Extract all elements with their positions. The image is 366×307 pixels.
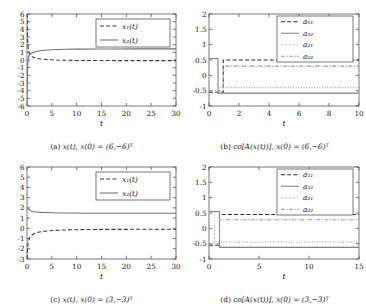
svg-text:6: 6 bbox=[297, 109, 302, 118]
svg-text:a₁₂: a₁₂ bbox=[303, 182, 313, 191]
svg-text:2: 2 bbox=[20, 203, 25, 212]
caption-d-text: co[A(x(t))], x(0) = (3,−3) bbox=[233, 295, 325, 304]
svg-text:4: 4 bbox=[20, 183, 25, 192]
svg-text:20: 20 bbox=[122, 262, 132, 271]
svg-text:0: 0 bbox=[25, 262, 30, 271]
svg-text:-1: -1 bbox=[17, 63, 24, 72]
panel-d: 051015-1-0.500.511.52ta₁₁a₁₂a₂₁a₂₂ (d) c… bbox=[183, 153, 366, 306]
panel-c: 051015202530-3-2-10123456tx₁(t)x₂(t) (c)… bbox=[0, 153, 183, 306]
svg-text:5: 5 bbox=[257, 262, 262, 271]
figure-sheet: 051015202530-6-5-4-3-2-10123456tx₁(t)x₂(… bbox=[0, 0, 366, 307]
svg-text:0: 0 bbox=[207, 109, 212, 118]
caption-c-text: x(t), x(0) = (3,−3) bbox=[63, 295, 130, 304]
svg-text:10: 10 bbox=[304, 262, 314, 271]
svg-text:15: 15 bbox=[97, 109, 107, 118]
svg-text:1: 1 bbox=[20, 48, 25, 57]
svg-text:-2: -2 bbox=[17, 71, 24, 80]
svg-text:4: 4 bbox=[20, 25, 25, 34]
svg-text:15: 15 bbox=[354, 262, 364, 271]
svg-text:-0.5: -0.5 bbox=[193, 239, 207, 248]
chart-a-svg: 051015202530-6-5-4-3-2-10123456tx₁(t)x₂(… bbox=[0, 2, 183, 130]
svg-text:1.5: 1.5 bbox=[195, 25, 207, 34]
caption-b-tag: (b) bbox=[220, 142, 231, 151]
svg-text:1: 1 bbox=[20, 214, 25, 223]
caption-c: (c) x(t), x(0) = (3,−3)T bbox=[0, 296, 183, 304]
svg-text:25: 25 bbox=[147, 262, 157, 271]
svg-text:a₂₂: a₂₂ bbox=[303, 205, 313, 214]
svg-text:t: t bbox=[282, 119, 286, 128]
svg-text:1: 1 bbox=[202, 40, 207, 49]
svg-text:a₂₁: a₂₁ bbox=[303, 193, 313, 202]
svg-text:2: 2 bbox=[237, 109, 242, 118]
caption-a: (a) x(t), x(0) = (6,−6)T bbox=[0, 143, 183, 151]
svg-text:5: 5 bbox=[20, 173, 25, 182]
svg-text:0: 0 bbox=[25, 109, 30, 118]
plot-b: 0246810-1-0.500.511.52ta₁₁a₁₂a₂₁a₂₂ bbox=[183, 2, 366, 130]
svg-text:0: 0 bbox=[20, 224, 25, 233]
caption-b-sup: T bbox=[325, 142, 328, 148]
svg-text:2: 2 bbox=[202, 10, 207, 19]
svg-text:0: 0 bbox=[207, 262, 212, 271]
chart-c-svg: 051015202530-3-2-10123456tx₁(t)x₂(t) bbox=[0, 155, 183, 283]
svg-text:2: 2 bbox=[20, 40, 25, 49]
svg-text:6: 6 bbox=[20, 10, 25, 19]
svg-text:-1: -1 bbox=[199, 255, 206, 264]
svg-text:t: t bbox=[282, 272, 286, 281]
svg-text:-3: -3 bbox=[17, 255, 24, 264]
svg-text:10: 10 bbox=[354, 109, 364, 118]
caption-d-tag: (d) bbox=[220, 295, 231, 304]
chart-b-svg: 0246810-1-0.500.511.52ta₁₁a₁₂a₂₁a₂₂ bbox=[183, 2, 366, 130]
svg-text:x₂(t): x₂(t) bbox=[122, 36, 138, 45]
svg-text:0.5: 0.5 bbox=[195, 209, 207, 218]
svg-text:0.5: 0.5 bbox=[195, 56, 207, 65]
svg-text:0: 0 bbox=[202, 71, 207, 80]
svg-text:6: 6 bbox=[20, 163, 25, 172]
caption-a-sup: T bbox=[130, 142, 133, 148]
svg-text:-4: -4 bbox=[17, 86, 24, 95]
svg-text:-2: -2 bbox=[17, 244, 24, 253]
caption-b-text: co[A(x(t))], x(0) = (6,−6) bbox=[233, 142, 325, 151]
caption-d-sup: T bbox=[325, 295, 328, 301]
caption-b: (b) co[A(x(t))], x(0) = (6,−6)T bbox=[183, 143, 366, 151]
panel-b: 0246810-1-0.500.511.52ta₁₁a₁₂a₂₁a₂₂ (b) … bbox=[183, 0, 366, 153]
caption-c-sup: T bbox=[129, 295, 132, 301]
caption-a-text: x(t), x(0) = (6,−6) bbox=[63, 142, 130, 151]
svg-text:a₁₁: a₁₁ bbox=[303, 17, 313, 26]
svg-text:30: 30 bbox=[171, 109, 181, 118]
caption-a-tag: (a) bbox=[50, 142, 60, 151]
svg-text:0: 0 bbox=[20, 56, 25, 65]
svg-text:10: 10 bbox=[72, 109, 82, 118]
caption-d: (d) co[A(x(t))], x(0) = (3,−3)T bbox=[183, 296, 366, 304]
svg-text:1: 1 bbox=[202, 193, 207, 202]
svg-text:a₁₁: a₁₁ bbox=[303, 170, 313, 179]
svg-text:3: 3 bbox=[20, 193, 25, 202]
svg-text:-1: -1 bbox=[199, 102, 206, 111]
svg-text:t: t bbox=[100, 272, 104, 281]
svg-text:5: 5 bbox=[50, 262, 55, 271]
svg-text:3: 3 bbox=[20, 33, 25, 42]
svg-text:5: 5 bbox=[20, 17, 25, 26]
svg-text:30: 30 bbox=[171, 262, 181, 271]
svg-text:8: 8 bbox=[327, 109, 332, 118]
svg-text:x₁(t): x₁(t) bbox=[122, 22, 138, 31]
plot-d: 051015-1-0.500.511.52ta₁₁a₁₂a₂₁a₂₂ bbox=[183, 155, 366, 283]
plot-a: 051015202530-6-5-4-3-2-10123456tx₁(t)x₂(… bbox=[0, 2, 183, 130]
svg-text:-6: -6 bbox=[17, 102, 24, 111]
svg-text:0: 0 bbox=[202, 224, 207, 233]
svg-text:10: 10 bbox=[72, 262, 82, 271]
svg-text:a₂₁: a₂₁ bbox=[303, 40, 313, 49]
svg-text:-3: -3 bbox=[17, 79, 24, 88]
svg-text:t: t bbox=[100, 119, 104, 128]
chart-d-svg: 051015-1-0.500.511.52ta₁₁a₁₂a₂₁a₂₂ bbox=[183, 155, 366, 283]
svg-text:20: 20 bbox=[122, 109, 132, 118]
svg-text:5: 5 bbox=[50, 109, 55, 118]
plot-c: 051015202530-3-2-10123456tx₁(t)x₂(t) bbox=[0, 155, 183, 283]
svg-text:15: 15 bbox=[97, 262, 107, 271]
svg-text:-5: -5 bbox=[17, 94, 24, 103]
svg-text:1.5: 1.5 bbox=[195, 178, 207, 187]
svg-text:-0.5: -0.5 bbox=[193, 86, 207, 95]
panel-a: 051015202530-6-5-4-3-2-10123456tx₁(t)x₂(… bbox=[0, 0, 183, 153]
caption-c-tag: (c) bbox=[50, 295, 60, 304]
svg-text:a₁₂: a₁₂ bbox=[303, 29, 313, 38]
svg-text:x₁(t): x₁(t) bbox=[122, 175, 138, 184]
